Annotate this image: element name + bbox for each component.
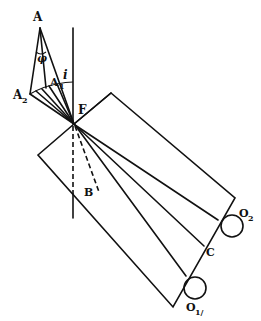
label-B: B bbox=[84, 186, 93, 199]
ray-F-C bbox=[75, 125, 204, 246]
label-O2-sub: 2 bbox=[248, 213, 254, 223]
label-F: F bbox=[78, 103, 87, 117]
label-C: C bbox=[206, 246, 215, 259]
label-i: i bbox=[63, 68, 68, 82]
ray-F-O2 bbox=[75, 125, 218, 220]
label-A1-sub: 1 bbox=[59, 81, 65, 91]
label-phi: φ bbox=[37, 52, 47, 65]
label-A: A bbox=[32, 10, 43, 24]
label-A2-sub: 2 bbox=[22, 95, 28, 105]
circle-O1 bbox=[184, 277, 206, 299]
optics-diagram: A φ A 1 i A 2 F B C O 2 O 1/ bbox=[0, 0, 261, 321]
ray-F-O1 bbox=[75, 125, 186, 276]
label-A1: A bbox=[49, 76, 59, 89]
ray-3 bbox=[42, 89, 74, 124]
crystal-rectangle bbox=[38, 93, 235, 307]
label-O1-sub: 1/ bbox=[195, 307, 204, 317]
